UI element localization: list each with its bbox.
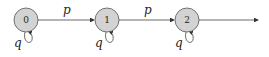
edge-label-1-2: p <box>144 3 152 17</box>
self-loop-label-2: q <box>175 36 183 50</box>
node-0: 0 <box>14 8 38 32</box>
self-loop-1 <box>106 31 114 42</box>
state-diagram: p p q q q 0 1 2 <box>0 0 269 57</box>
self-loop-label-0: q <box>14 36 22 50</box>
node-label-0: 0 <box>23 15 29 25</box>
self-loop-0 <box>25 31 33 42</box>
self-loop-label-1: q <box>95 36 103 50</box>
node-label-1: 1 <box>104 15 110 25</box>
node-2: 2 <box>175 8 199 32</box>
edge-label-0-1: p <box>63 3 71 17</box>
node-label-2: 2 <box>184 15 190 25</box>
node-1: 1 <box>95 8 119 32</box>
self-loop-2 <box>186 31 194 42</box>
